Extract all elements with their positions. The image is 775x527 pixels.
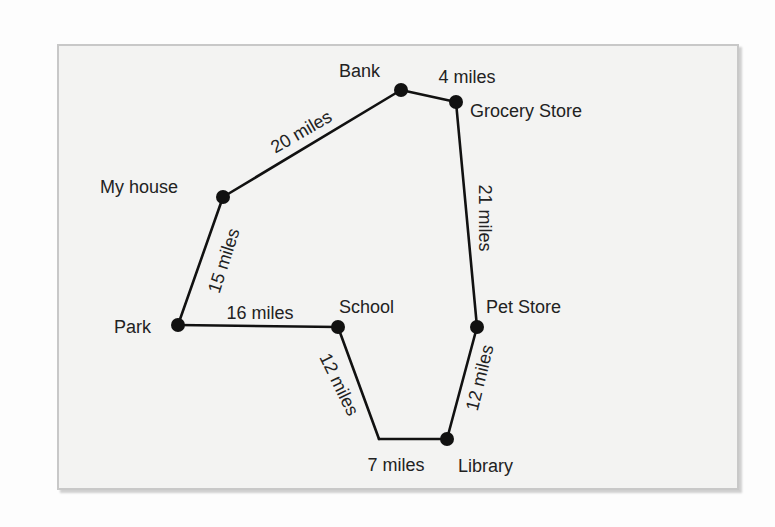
location-dot-house [216, 190, 230, 204]
location-dot-school [331, 320, 345, 334]
location-label-library: Library [458, 456, 513, 476]
location-label-park: Park [114, 317, 152, 337]
location-dot-grocery [449, 95, 463, 109]
location-dot-library [440, 432, 454, 446]
route-map: 20 miles4 miles21 miles15 miles16 miles1… [0, 0, 775, 527]
distance-label: 12 miles [315, 350, 362, 419]
distance-label: 7 miles [367, 455, 424, 475]
location-dot-petstore [470, 320, 484, 334]
route-bank-grocery [401, 90, 456, 102]
location-label-petstore: Pet Store [486, 297, 561, 317]
location-label-house: My house [100, 177, 178, 197]
route-house-bank [223, 90, 401, 197]
map-canvas: 20 miles4 miles21 miles15 miles16 miles1… [0, 0, 775, 527]
distance-label: 16 miles [226, 303, 293, 323]
location-label-school: School [339, 297, 394, 317]
location-dot-bank [394, 83, 408, 97]
route-grocery-petstore [456, 102, 477, 327]
distance-label: 21 miles [475, 184, 495, 251]
location-label-bank: Bank [339, 61, 381, 81]
distance-label: 12 miles [462, 343, 498, 413]
location-label-grocery: Grocery Store [470, 101, 582, 121]
location-dot-park [171, 318, 185, 332]
route-park-school [178, 325, 338, 327]
distance-label: 4 miles [438, 67, 495, 87]
